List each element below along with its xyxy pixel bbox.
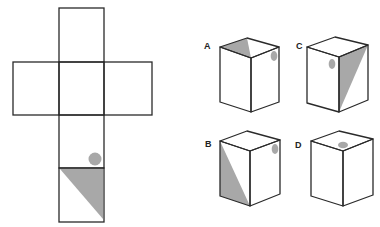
- option-a[interactable]: A: [204, 38, 279, 112]
- option-a-label: A: [204, 41, 211, 51]
- option-b[interactable]: B: [205, 131, 280, 206]
- option-c-left-face: [307, 47, 339, 112]
- net-face-left: [13, 62, 59, 115]
- option-b-label: B: [205, 139, 212, 149]
- option-b-left-shade: [220, 141, 250, 206]
- option-a-dot: [271, 51, 278, 61]
- option-c[interactable]: C: [296, 37, 368, 112]
- option-c-dot: [329, 59, 336, 69]
- net-shaded-triangle: [60, 169, 103, 219]
- net-face-top: [59, 8, 104, 62]
- option-d-right-face: [343, 139, 373, 206]
- option-a-left-face: [220, 47, 251, 112]
- net-face-right: [104, 62, 152, 115]
- option-c-label: C: [296, 41, 303, 51]
- option-d[interactable]: D: [295, 131, 373, 206]
- puzzle-figure: A C B D: [0, 0, 380, 227]
- option-d-left-face: [311, 141, 343, 206]
- net-dot: [89, 153, 102, 166]
- net-face-center: [59, 62, 104, 115]
- option-d-dot: [338, 142, 348, 148]
- option-b-dot: [272, 144, 279, 154]
- option-d-label: D: [295, 140, 302, 150]
- option-b-top-face: [220, 131, 280, 151]
